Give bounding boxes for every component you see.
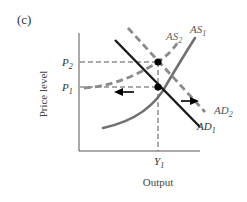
ad1-label: AD1 xyxy=(196,120,216,135)
equilibrium-point-p1 xyxy=(154,83,161,90)
as2-label: AS2 xyxy=(165,30,182,45)
y1-tick-label: Y1 xyxy=(154,155,164,170)
arrow-left-icon xyxy=(114,88,134,96)
economics-diagram: (c) Price level Output P2 P1 Y1 AS2 xyxy=(0,0,247,202)
p2-tick-label: P2 xyxy=(61,56,73,71)
y-axis-label: Price level xyxy=(37,71,49,118)
ad2-label: AD2 xyxy=(213,104,233,119)
as1-label: AS1 xyxy=(189,23,206,38)
equilibrium-point-p2 xyxy=(154,58,161,65)
as2-curve xyxy=(84,42,178,88)
p1-tick-label: P1 xyxy=(61,81,73,96)
panel-label: (c) xyxy=(17,12,31,27)
x-axis-label: Output xyxy=(143,176,174,188)
